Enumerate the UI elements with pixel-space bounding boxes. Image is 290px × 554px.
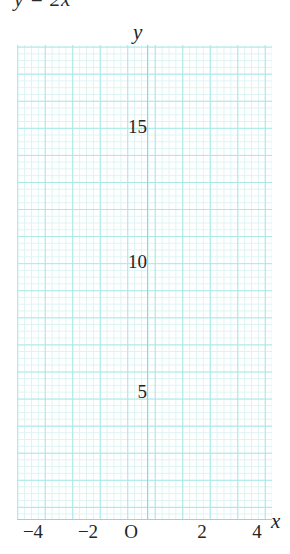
x-tick-label-4: 4: [252, 521, 262, 543]
origin-label: O: [124, 521, 138, 543]
x-tick-label-minus-4: −4: [23, 521, 43, 543]
x-axis-name: x: [271, 509, 280, 534]
y-tick-label-10: 10: [128, 251, 147, 273]
x-axis-line: [17, 519, 272, 520]
y-tick-label-15: 15: [128, 116, 147, 138]
x-tick-label-minus-2: −2: [78, 521, 98, 543]
x-tick-label-2: 2: [197, 521, 207, 543]
y-axis-line: [147, 45, 148, 520]
equation-strip: y = 2x: [0, 0, 290, 14]
equation-label: y = 2x: [14, 0, 71, 12]
y-axis-name: y: [133, 20, 142, 45]
y-tick-label-5: 5: [138, 381, 148, 403]
